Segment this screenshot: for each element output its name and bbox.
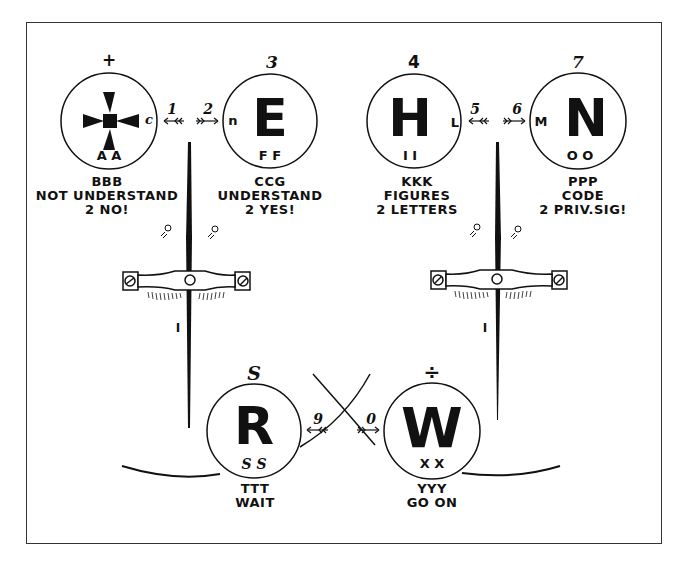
right-bracket-hatching	[455, 291, 531, 299]
arrow-2-right-icon	[196, 118, 218, 124]
cross-curve-2	[300, 374, 370, 447]
diagram-artwork	[0, 0, 682, 561]
cross-pattee-icon	[83, 92, 139, 150]
glyph-w: W	[401, 400, 463, 456]
symbol-s: S	[247, 364, 261, 383]
left-bracket-hatching	[148, 292, 224, 300]
symbol-divide: ÷	[424, 362, 441, 382]
glyph-h: H	[388, 92, 432, 144]
side-letter-m: M	[535, 115, 548, 128]
arrow-label-0: 0	[366, 412, 376, 426]
arrow-label-2: 2	[203, 102, 213, 116]
glyph-n: N	[564, 92, 608, 144]
side-letter-n: n	[228, 114, 237, 127]
arrow-label-1: 1	[167, 102, 177, 116]
cross-curve-1	[313, 374, 375, 445]
bottom-letters-ii: I I	[403, 149, 417, 162]
caption-e: CCG UNDERSTAND 2 YES!	[217, 175, 322, 217]
arrow-label-5: 5	[470, 102, 480, 116]
right-indicator-label: I	[483, 322, 487, 334]
arc-left	[122, 466, 220, 477]
bottom-letters-oo: O O	[567, 149, 594, 162]
side-letter-l: L	[451, 116, 459, 129]
bottom-letters-ss: S S	[241, 457, 266, 471]
caption-w: YYY GO ON	[407, 482, 458, 510]
left-bracket	[123, 271, 250, 290]
caption-cross: BBB NOT UNDERSTAND 2 NO!	[36, 175, 178, 217]
arrow-9-left-icon	[307, 427, 328, 433]
arrow-6-right-icon	[503, 118, 525, 124]
caption-n: PPP CODE 2 PRIV.SIG!	[539, 175, 627, 217]
bottom-letters-ff: F F	[259, 149, 281, 162]
left-indicator-label: I	[176, 322, 180, 334]
arrow-5-left-icon	[469, 118, 489, 124]
glyph-r: R	[234, 400, 274, 452]
bottom-letters-aa: A A	[97, 149, 122, 162]
symbol-7: 7	[572, 54, 584, 71]
arrow-label-9: 9	[313, 412, 323, 426]
symbol-4: 4	[408, 54, 420, 71]
caption-h: KKK FIGURES 2 LETTERS	[376, 175, 458, 217]
arrow-label-6: 6	[512, 102, 522, 116]
bottom-letters-xx: X X	[420, 457, 445, 470]
caption-r: TTT WAIT	[235, 482, 275, 510]
right-bracket	[431, 270, 567, 289]
arc-right	[462, 466, 560, 475]
glyph-e: E	[252, 92, 288, 144]
symbol-plus: +	[102, 52, 116, 69]
symbol-3: 3	[266, 54, 278, 71]
side-letter-c: c	[145, 113, 153, 126]
arrow-1-left-icon	[164, 118, 184, 124]
